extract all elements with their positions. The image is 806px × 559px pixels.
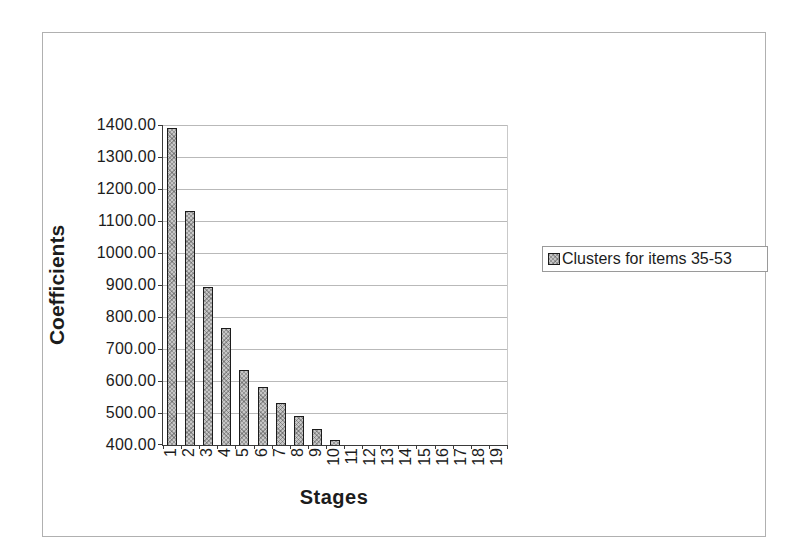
bar-stage-1 <box>167 128 177 445</box>
gridline <box>163 413 507 414</box>
legend-box: Clusters for items 35-53 <box>542 246 768 272</box>
bar-stage-2 <box>185 211 195 445</box>
gridline <box>163 189 507 190</box>
y-tick-mark <box>158 285 162 286</box>
gridline <box>163 381 507 382</box>
y-tick-label: 1100.00 <box>76 213 156 229</box>
bar-stage-5 <box>239 370 249 445</box>
plot-area <box>162 125 508 446</box>
y-tick-mark <box>158 413 162 414</box>
x-tick-label: 6 <box>254 448 270 482</box>
y-tick-label: 1000.00 <box>76 245 156 261</box>
y-tick-mark <box>158 349 162 350</box>
x-tick-label: 5 <box>235 448 251 482</box>
y-tick-label: 500.00 <box>76 405 156 421</box>
x-tick-label: 12 <box>362 448 378 482</box>
x-tick-label: 19 <box>489 448 505 482</box>
bar-stage-3 <box>203 287 213 445</box>
x-tick-label: 8 <box>290 448 306 482</box>
y-tick-mark <box>158 125 162 126</box>
x-tick-label: 7 <box>272 448 288 482</box>
figure-frame: Coefficients 1400.001300.001200.001100.0… <box>42 32 766 537</box>
legend-marker-icon <box>548 253 560 265</box>
y-tick-label: 1400.00 <box>76 117 156 133</box>
gridline <box>163 253 507 254</box>
y-tick-mark <box>158 253 162 254</box>
x-tick-label: 2 <box>181 448 197 482</box>
scanned-figure-page: Coefficients 1400.001300.001200.001100.0… <box>0 0 806 559</box>
y-tick-mark <box>158 221 162 222</box>
x-tick-label: 13 <box>380 448 396 482</box>
gridline <box>163 221 507 222</box>
y-tick-label: 700.00 <box>76 341 156 357</box>
y-tick-label: 1200.00 <box>76 181 156 197</box>
gridline <box>163 157 507 158</box>
x-tick-label: 1 <box>163 448 179 482</box>
y-tick-mark <box>158 381 162 382</box>
x-tick-label: 14 <box>398 448 414 482</box>
legend-entry-label: Clusters for items 35-53 <box>562 251 732 267</box>
x-tick-label: 18 <box>471 448 487 482</box>
gridline <box>163 317 507 318</box>
x-tick-label: 15 <box>417 448 433 482</box>
bar-stage-9 <box>312 429 322 445</box>
x-tick-label: 16 <box>435 448 451 482</box>
y-tick-mark <box>158 444 162 445</box>
bar-stage-8 <box>294 416 304 445</box>
y-tick-label: 900.00 <box>76 277 156 293</box>
x-tick-label: 3 <box>199 448 215 482</box>
gridline <box>163 125 507 126</box>
gridline <box>163 349 507 350</box>
y-tick-label: 600.00 <box>76 373 156 389</box>
x-tick-mark <box>507 445 508 449</box>
x-tick-label: 11 <box>344 448 360 482</box>
x-axis-title: Stages <box>162 485 506 509</box>
y-tick-mark <box>158 189 162 190</box>
x-tick-label: 4 <box>217 448 233 482</box>
y-tick-label: 800.00 <box>76 309 156 325</box>
x-tick-label: 10 <box>326 448 342 482</box>
x-tick-label: 17 <box>453 448 469 482</box>
y-tick-mark <box>158 157 162 158</box>
bar-stage-6 <box>258 387 268 445</box>
y-tick-label: 1300.00 <box>76 149 156 165</box>
bar-stage-7 <box>276 403 286 445</box>
x-tick-label: 9 <box>308 448 324 482</box>
bar-stage-4 <box>221 328 231 445</box>
bar-stage-10 <box>330 440 340 445</box>
y-tick-mark <box>158 317 162 318</box>
gridline <box>163 285 507 286</box>
y-axis-title: Coefficients <box>45 185 69 385</box>
y-tick-label: 400.00 <box>76 437 156 453</box>
